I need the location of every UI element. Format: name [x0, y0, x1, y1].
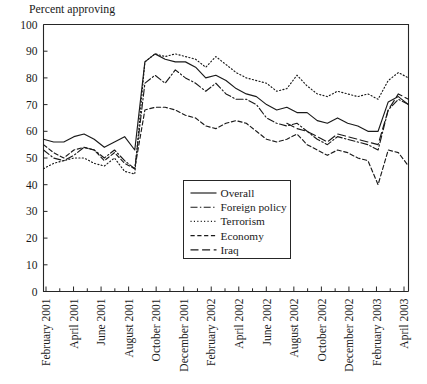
y-tick-label: 70 [26, 99, 38, 111]
y-tick-label: 100 [20, 19, 38, 31]
x-tick-label: June 2002 [261, 298, 273, 345]
series-line-economy [44, 107, 409, 184]
y-tick-label: 80 [26, 72, 38, 84]
x-tick-label: October 2002 [316, 298, 328, 361]
x-tick-label: April 2002 [233, 298, 246, 348]
approval-line-chart: 0102030405060708090100February 2001April… [0, 0, 427, 384]
y-tick-label: 90 [26, 45, 38, 57]
x-tick-label: February 2002 [205, 298, 218, 366]
y-tick-label: 30 [26, 205, 38, 217]
y-tick-label: 60 [26, 125, 38, 137]
y-tick-label: 40 [26, 179, 38, 191]
y-axis-title: Percent approving [29, 2, 115, 16]
x-tick-label: December 2002 [343, 298, 355, 371]
x-tick-label: February 2001 [40, 298, 53, 366]
legend-label-economy: Economy [221, 230, 265, 242]
legend-label-overall: Overall [221, 187, 255, 199]
x-tick-label: June 2001 [95, 298, 107, 345]
series-line-overall [44, 54, 409, 150]
y-tick-label: 50 [26, 152, 38, 164]
x-tick-label: August 2001 [123, 298, 136, 357]
x-tick-label: April 2001 [68, 298, 81, 348]
y-tick-label: 0 [32, 286, 38, 298]
legend-label-foreign-policy: Foreign policy [221, 201, 288, 213]
legend-label-iraq: Iraq [221, 244, 240, 256]
chart-canvas: 0102030405060708090100February 2001April… [0, 0, 427, 384]
x-tick-label: April 2003 [398, 298, 411, 348]
x-tick-label: February 2003 [371, 298, 384, 366]
legend-label-terrorism: Terrorism [221, 215, 266, 227]
y-tick-label: 10 [26, 259, 38, 271]
x-tick-label: August 2002 [288, 298, 301, 357]
y-tick-label: 20 [26, 232, 38, 244]
x-tick-label: October 2001 [150, 298, 162, 361]
x-tick-label: December 2001 [178, 298, 190, 371]
series-line-iraq [287, 94, 409, 145]
